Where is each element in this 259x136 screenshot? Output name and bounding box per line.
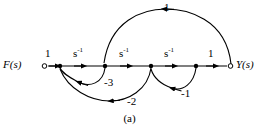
branch-output-gain-label: 1 <box>208 48 214 59</box>
node-3 <box>149 64 153 68</box>
branch-input-gain-label: 1 <box>45 48 51 59</box>
branch-integrator-3-gain-exponent: -1 <box>168 46 174 54</box>
input-node <box>42 64 47 69</box>
branch-integrator-1-label: s-1 <box>73 48 83 59</box>
feedback-branch-minus1-arc-right <box>172 68 196 89</box>
output-node <box>228 64 233 69</box>
branch-integrator-3-label: s-1 <box>164 48 174 59</box>
branch-integrator-2-label: s-1 <box>119 48 129 59</box>
node-4 <box>194 64 198 68</box>
feedback-branch-minus2-label: -2 <box>127 96 136 107</box>
branch-integrator-1-gain-exponent: -1 <box>77 46 83 54</box>
feedforward-branch-top-arc-right <box>166 9 231 64</box>
branch-integrator-2-gain-exponent: -1 <box>123 46 129 54</box>
feedback-branch-minus3-label: -3 <box>104 77 113 88</box>
feedback-branch-minus1-label: -1 <box>181 88 190 99</box>
feedforward-branch-top-label: 1 <box>164 2 170 13</box>
feedback-branch-minus3-group <box>60 68 105 86</box>
output-signal-label: Y(s) <box>236 59 254 70</box>
feedback-branch-minus1-arc-left <box>151 69 172 88</box>
feedforward-branch-top-arc-left <box>104 9 166 63</box>
node-1 <box>58 64 62 68</box>
feedback-branch-minus3-arc-right <box>78 68 105 84</box>
arrowhead-feedback-branch-minus2 <box>111 100 121 101</box>
node-2 <box>103 64 107 68</box>
signal-flow-graph-figure: F(s) Y(s) 1 s-1 s-1 s-1 1 1 -3 -2 -1 (a) <box>0 0 259 136</box>
arrowhead-feedback-branch-minus3 <box>79 82 89 85</box>
figure-caption: (a) <box>0 112 259 124</box>
input-signal-label: F(s) <box>3 59 21 70</box>
